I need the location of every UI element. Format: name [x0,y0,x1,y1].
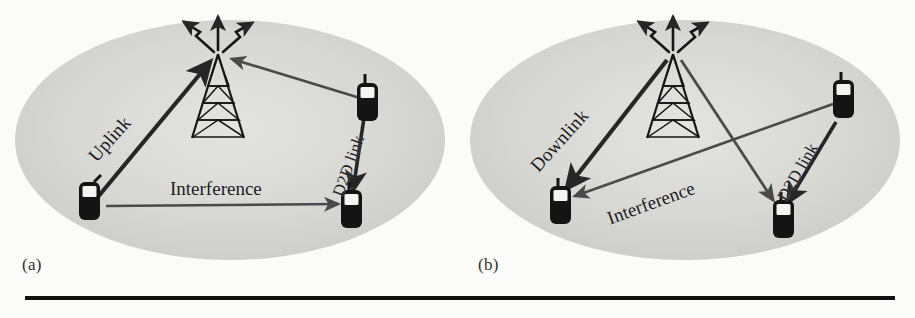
cell-coverage-area [470,20,900,260]
cell-coverage-area [15,20,445,260]
interference-label: Interference [170,178,262,200]
panel-a-canvas [0,0,460,290]
panel-a [0,0,460,290]
panel-b [455,0,915,290]
figure-two-panel-d2d-diagram: Uplink Interference D2D link Downlink In… [0,0,915,318]
panel-b-canvas [455,0,915,290]
panel-b-caption: (b) [478,255,499,275]
panel-a-caption: (a) [22,255,42,275]
horizontal-rule [25,296,895,300]
